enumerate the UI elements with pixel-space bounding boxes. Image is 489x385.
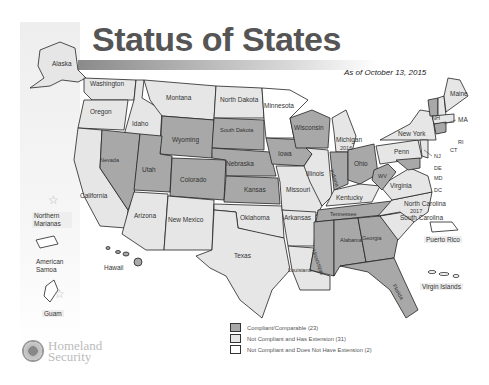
label-ma: MA bbox=[458, 116, 468, 123]
label-georgia: Georgia bbox=[362, 235, 383, 241]
label-texas: Texas bbox=[234, 252, 252, 259]
label-louisiana: Louisiana bbox=[288, 267, 312, 273]
label-ohio: Ohio bbox=[354, 160, 368, 167]
label-virginia: Virginia bbox=[390, 182, 412, 190]
label-oklahoma: Oklahoma bbox=[240, 214, 270, 221]
label-de: DE bbox=[434, 165, 442, 171]
legend-swatch-extension bbox=[230, 334, 241, 343]
label-ri: RI bbox=[458, 139, 464, 145]
label-washington: Washington bbox=[90, 80, 124, 88]
label-nj: NJ bbox=[434, 153, 441, 159]
label-utah: Utah bbox=[142, 166, 156, 173]
legend-item-no-extension: Not Compliant and Does Not Have Extensio… bbox=[230, 344, 372, 355]
label-wyoming: Wyoming bbox=[172, 136, 199, 144]
state-florida bbox=[340, 258, 418, 318]
label-wv: WV bbox=[378, 173, 387, 179]
label-new-mexico: New Mexico bbox=[168, 216, 204, 223]
label-dc: DC bbox=[434, 187, 442, 193]
star-icon: ☆ bbox=[48, 193, 59, 207]
label-arizona: Arizona bbox=[134, 212, 156, 219]
territory-puerto-rico bbox=[430, 222, 458, 232]
dhs-logo: Homeland Security bbox=[22, 340, 102, 362]
label-maine: Maine bbox=[450, 90, 468, 97]
label-idaho: Idaho bbox=[132, 120, 149, 127]
legend-label: Not Compliant and Has Extension (31) bbox=[247, 336, 346, 342]
legend-swatch-compliant bbox=[230, 323, 241, 332]
label-hawaii: Hawaii bbox=[104, 264, 124, 271]
label-kentucky: Kentucky bbox=[336, 194, 363, 202]
state-vermont bbox=[428, 98, 438, 116]
dhs-seal-icon bbox=[22, 340, 44, 362]
legend-swatch-no-extension bbox=[230, 345, 241, 354]
label-montana: Montana bbox=[166, 94, 192, 101]
label-alabama: Alabama bbox=[340, 237, 363, 243]
label-american-samoa: American Samoa bbox=[34, 258, 70, 274]
legend-item-extension: Not Compliant and Has Extension (31) bbox=[230, 333, 372, 344]
label-south-dakota: South Dakota bbox=[220, 127, 254, 133]
label-illinois: Illinois bbox=[306, 170, 325, 177]
label-nevada: Nevada bbox=[100, 157, 120, 163]
label-oregon: Oregon bbox=[90, 108, 112, 116]
legend-item-compliant: Compliant/Comparable (23) bbox=[230, 322, 372, 333]
label-wisconsin: Wisconsin bbox=[294, 124, 324, 131]
label-iowa: Iowa bbox=[278, 150, 292, 157]
legend: Compliant/Comparable (23) Not Compliant … bbox=[230, 322, 372, 355]
label-south-carolina: South Carolina bbox=[400, 214, 443, 221]
label-michigan: Michigan bbox=[336, 136, 362, 144]
label-north-carolina: North Carolina bbox=[404, 200, 446, 207]
label-md: MD bbox=[434, 175, 443, 181]
label-northern-marianas: Northern Marianas bbox=[32, 212, 72, 228]
state-maryland bbox=[396, 158, 420, 170]
label-michigan-year: 2016 bbox=[340, 145, 352, 151]
label-new-york: New York bbox=[398, 130, 426, 137]
label-tennessee: Tennessee bbox=[330, 211, 357, 217]
label-north-carolina-year: 2017 bbox=[410, 208, 422, 214]
state-south-dakota bbox=[212, 118, 264, 150]
label-guam: Guam bbox=[42, 310, 64, 317]
label-california: California bbox=[80, 192, 108, 199]
legend-label: Compliant/Comparable (23) bbox=[247, 325, 318, 331]
label-virgin-islands: Virgin Islands bbox=[420, 283, 463, 290]
label-minnesota: Minnesota bbox=[264, 102, 294, 109]
label-puerto-rico: Puerto Rico bbox=[424, 236, 462, 243]
label-ct: CT bbox=[450, 147, 458, 153]
label-colorado: Colorado bbox=[180, 176, 207, 183]
star-icon: ☆ bbox=[54, 287, 65, 301]
state-oregon bbox=[78, 100, 128, 130]
label-alaska: Alaska bbox=[52, 60, 72, 67]
label-north-dakota: North Dakota bbox=[220, 96, 259, 103]
label-penn: Penn bbox=[394, 148, 410, 155]
label-arkansas: Arkansas bbox=[284, 214, 312, 221]
label-nh: NH bbox=[432, 115, 440, 121]
legend-label: Not Compliant and Does Not Have Extensio… bbox=[247, 347, 372, 353]
territory-american-samoa bbox=[36, 236, 58, 248]
label-kansas: Kansas bbox=[244, 186, 266, 193]
state-new-mexico bbox=[164, 196, 214, 250]
label-missouri: Missouri bbox=[286, 186, 310, 193]
label-nebraska: Nebraska bbox=[226, 160, 254, 167]
territory-virgin-islands bbox=[428, 271, 459, 278]
